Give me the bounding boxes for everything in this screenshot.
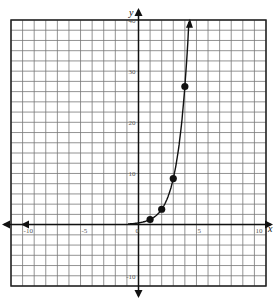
x-tick-label: 10 — [255, 227, 263, 235]
y-tick-label: 10 — [129, 170, 137, 178]
y-axis-up-arrow-icon — [135, 8, 143, 16]
x-axis-label: x — [267, 223, 273, 234]
y-tick-label: 30 — [129, 68, 137, 76]
x-tick-label: 0 — [136, 227, 140, 235]
x-tick-label: 5 — [197, 227, 201, 235]
y-tick-label: 40 — [129, 17, 137, 25]
y-tick-label: 20 — [129, 119, 137, 127]
data-point — [158, 206, 165, 213]
y-axis-down-arrow-icon — [135, 290, 143, 298]
x-tick-label: -10 — [24, 227, 34, 235]
data-point — [146, 216, 153, 223]
y-tick-label: -10 — [126, 273, 136, 281]
y-axis-label: y — [128, 7, 134, 18]
x-tick-label: -5 — [82, 227, 88, 235]
data-point — [170, 175, 177, 182]
tick-labels: -10-5051040302010-10 — [24, 17, 263, 281]
exponential-graph: -10-5051040302010-10 x y — [0, 0, 275, 302]
data-point — [181, 83, 188, 90]
x-axis-left-arrow-icon — [2, 221, 10, 229]
